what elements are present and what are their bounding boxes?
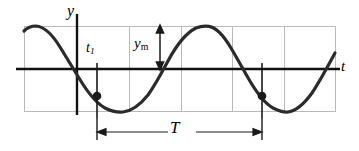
y-axis-label: y [67,3,74,19]
axes [16,14,340,115]
period-label: T [170,119,179,136]
marker-dot-t1 [93,92,102,101]
T-arrowhead-right [253,129,262,136]
ym-label-base: y [134,35,141,51]
waveform-figure: y t t1 ym T [0,0,359,151]
ym-label: ym [134,36,148,52]
t-axis-label: t [341,59,345,74]
ym-measure-arrow [156,25,163,70]
ym-label-sub: m [141,41,149,52]
marker-dot-t1-plus-T [258,92,267,101]
T-arrowhead-left [97,129,106,136]
t1-label-sub: 1 [90,46,95,56]
waveform-svg [0,0,359,151]
t1-label: t1 [86,41,95,57]
period-measure-arrow [97,118,262,140]
